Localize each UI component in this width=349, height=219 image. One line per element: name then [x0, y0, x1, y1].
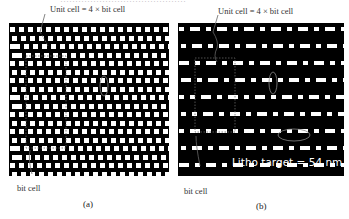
- bit-cell-label-a: bit cell: [17, 183, 40, 193]
- annotation-overlay: [0, 0, 349, 219]
- bit-cell-label-b: bit cell: [184, 186, 207, 196]
- caption-b: (b): [256, 201, 267, 211]
- caption-a: (a): [83, 199, 93, 209]
